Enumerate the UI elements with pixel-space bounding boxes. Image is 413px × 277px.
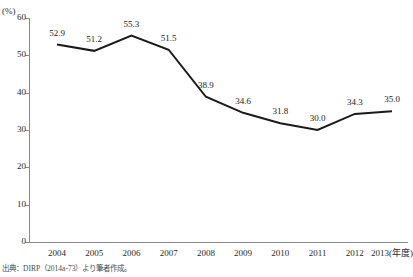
data-point-label: 31.8 [272, 106, 288, 117]
series-line-chart [29, 18, 408, 243]
x-axis-tick-label: 2013(年度) [371, 248, 413, 259]
x-axis-tick-label: 2011 [309, 248, 327, 259]
y-axis-unit-label: (%) [2, 6, 16, 17]
data-point-label: 55.3 [124, 19, 140, 30]
x-axis-tick-label: 2012 [346, 248, 364, 259]
data-point-label: 51.2 [86, 34, 102, 45]
y-axis-tick-label: 30 [17, 124, 26, 135]
data-point-label: 34.3 [347, 97, 363, 108]
y-axis-tick-label: 20 [17, 161, 26, 172]
series-polyline [57, 36, 392, 130]
y-axis-tick-label: 0 [22, 236, 27, 247]
x-axis-tick-label: 2005 [85, 248, 103, 259]
x-axis-tick-label: 2008 [197, 248, 215, 259]
figure-container: (%) 0102030405060 2004200520062007200820… [0, 0, 413, 277]
data-point-label: 30.0 [310, 113, 326, 124]
y-axis-tick-label: 40 [17, 87, 26, 98]
data-point-label: 38.9 [198, 80, 214, 91]
y-axis-tick-label: 60 [17, 12, 26, 23]
data-point-label: 51.5 [161, 33, 177, 44]
x-axis-tick-label: 2006 [122, 248, 140, 259]
y-axis-tick-label: 10 [17, 199, 26, 210]
data-point-label: 34.6 [235, 96, 251, 107]
data-point-label: 52.9 [49, 28, 65, 39]
plot-area: 0102030405060 20042005200620072008200920… [29, 18, 408, 243]
x-axis-tick-label: 2004 [48, 248, 66, 259]
x-axis-tick-label: 2010 [271, 248, 289, 259]
source-note: 出典：DIRP（2014a-73）より筆者作成。 [2, 264, 131, 274]
x-axis-tick-label: 2007 [160, 248, 178, 259]
data-point-label: 35.0 [384, 94, 400, 105]
y-axis-tick-label: 50 [17, 49, 26, 60]
x-axis-tick-label: 2009 [234, 248, 252, 259]
